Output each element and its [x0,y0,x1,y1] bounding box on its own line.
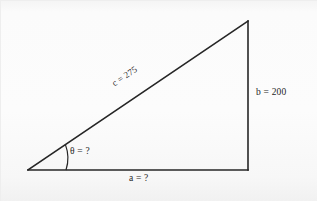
figure-canvas: c = 275 b = 200 θ = ? a = ? [0,0,317,201]
label-side-b: b = 200 [256,88,287,98]
label-angle-theta: θ = ? [70,147,90,157]
triangle-drawing [0,0,317,201]
label-side-a: a = ? [129,174,149,184]
angle-arc-icon [66,145,68,170]
triangle-side-c-hypotenuse [28,21,248,170]
